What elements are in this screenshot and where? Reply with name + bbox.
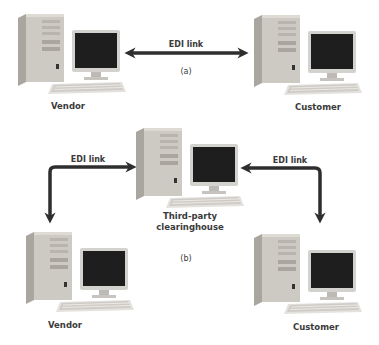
vendor-label-b: Vendor <box>48 320 82 331</box>
clearinghouse-computer-icon <box>136 128 246 208</box>
edi-link-label-left-b: EDI link <box>71 154 105 165</box>
vendor-computer-icon-b <box>26 232 136 312</box>
caption-a: (a) <box>180 66 191 77</box>
clearinghouse-label-line2: clearinghouse <box>156 222 223 233</box>
edi-link-label-right-b: EDI link <box>273 155 307 166</box>
edi-link-arrow-left-b <box>50 167 131 218</box>
customer-label-b: Customer <box>293 322 339 333</box>
edi-link-label-a: EDI link <box>169 39 203 50</box>
caption-b: (b) <box>180 253 191 264</box>
edi-link-arrow-right-b <box>246 168 320 218</box>
customer-computer-icon-b <box>254 234 364 314</box>
clearinghouse-label-line1: Third-party <box>163 211 217 222</box>
